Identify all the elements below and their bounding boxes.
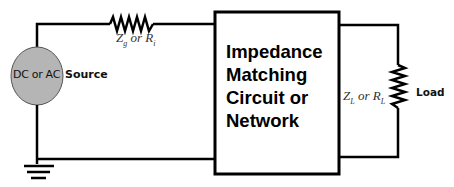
load-resistor-icon: [392, 65, 405, 108]
network-line-3: Circuit or: [226, 86, 323, 109]
network-line-4: Network: [226, 109, 323, 132]
network-line-2: Matching: [226, 63, 323, 86]
matching-network-label: Impedance Matching Circuit or Network: [226, 40, 323, 132]
ground-icon: [24, 166, 54, 178]
network-line-1: Impedance: [226, 40, 323, 63]
load-impedance-label: ZL or RL: [343, 88, 385, 106]
rl-sub: L: [381, 97, 385, 106]
source-outer-label: Source: [65, 68, 108, 81]
source-impedance-label: Zg or Ri: [116, 30, 155, 48]
wire-load-bottom: [340, 108, 398, 157]
rl-main: R: [373, 88, 381, 103]
wire-load-top: [340, 25, 398, 65]
load-label: Load: [416, 86, 445, 98]
zg-connector: or: [127, 30, 145, 45]
wire-source-top: [37, 24, 110, 48]
zl-connector: or: [355, 88, 373, 103]
source-resistor-icon: [110, 17, 153, 31]
ri-sub: i: [153, 39, 155, 48]
source-inner-label: DC or AC: [13, 68, 60, 81]
